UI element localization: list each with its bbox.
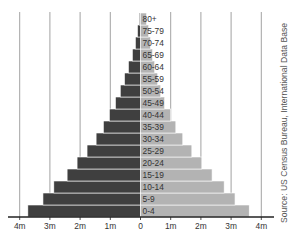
age-label: 30-34 <box>143 134 165 144</box>
age-label: 65-69 <box>143 50 165 60</box>
tick-label: 1m <box>165 221 177 231</box>
age-label: 0-4 <box>143 206 155 216</box>
male-bar <box>67 169 140 181</box>
age-label: 45-49 <box>143 98 165 108</box>
age-label: 70-74 <box>143 38 165 48</box>
tick-label: 1m <box>104 221 116 231</box>
male-bar <box>54 181 141 193</box>
male-bar <box>132 49 140 61</box>
tick-label: 2m <box>195 221 207 231</box>
male-bar <box>77 157 140 169</box>
male-bar <box>103 121 140 133</box>
age-label: 25-29 <box>143 146 165 156</box>
population-pyramid-chart: 0-45-910-1415-1920-2425-2930-3435-3940-4… <box>0 0 295 244</box>
age-label: 20-24 <box>143 158 165 168</box>
age-label: 5-9 <box>143 194 155 204</box>
x-axis-ticks: 4m3m2m1m01m2m3m4m <box>14 217 267 231</box>
tick-label: 3m <box>225 221 237 231</box>
tick-label: 0 <box>138 221 143 231</box>
female-bar <box>141 193 236 205</box>
male-bar <box>109 109 140 121</box>
male-bars <box>28 13 141 217</box>
male-bar <box>43 193 141 205</box>
male-bar <box>120 85 140 97</box>
age-label: 75-79 <box>143 26 165 36</box>
age-label: 35-39 <box>143 122 165 132</box>
tick-label: 3m <box>44 221 56 231</box>
male-bar <box>87 145 140 157</box>
male-bar <box>128 61 140 73</box>
male-bar <box>28 205 141 217</box>
male-bar <box>115 97 140 109</box>
source-note: Source: US Census Bureau, International … <box>277 8 291 238</box>
male-bar <box>137 25 140 37</box>
age-label: 15-19 <box>143 170 165 180</box>
source-text: Source: US Census Bureau, International … <box>279 23 289 223</box>
age-label: 80+ <box>143 14 157 24</box>
male-bar <box>124 73 140 85</box>
age-label: 40-44 <box>143 110 165 120</box>
age-label: 50-54 <box>143 86 165 96</box>
tick-label: 4m <box>255 221 267 231</box>
age-label: 10-14 <box>143 182 165 192</box>
tick-label: 2m <box>74 221 86 231</box>
age-label: 55-59 <box>143 74 165 84</box>
male-bar <box>135 37 140 49</box>
age-label: 60-64 <box>143 62 165 72</box>
tick-label: 4m <box>14 221 26 231</box>
age-group-labels: 0-45-910-1415-1920-2425-2930-3435-3940-4… <box>143 14 165 216</box>
male-bar <box>96 133 140 145</box>
female-bar <box>141 205 250 217</box>
